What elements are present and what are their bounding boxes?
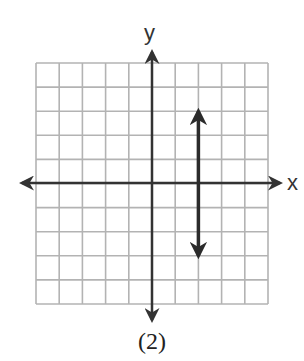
x-axis-label: x: [287, 172, 298, 194]
y-axis-label: y: [144, 22, 155, 44]
coordinate-plane: [0, 0, 304, 361]
figure-caption: (2): [0, 329, 304, 353]
